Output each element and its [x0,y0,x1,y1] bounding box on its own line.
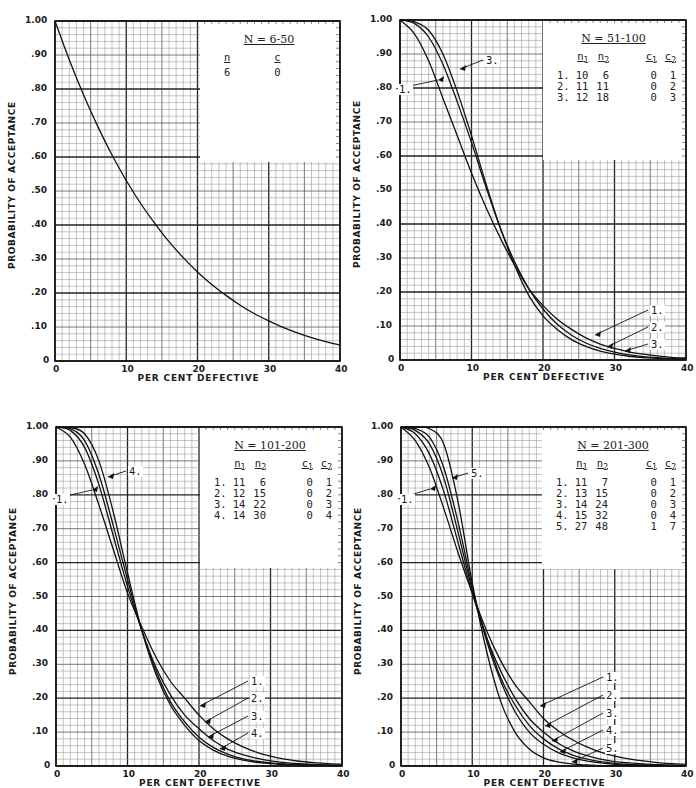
x-tick-label: 10 [467,769,480,779]
y-tick-label: .70 [377,523,393,533]
legend-header [552,458,571,477]
y-tick-label: .40 [377,624,393,634]
curve-label: 4. [605,725,620,736]
y-tick-label: .10 [377,726,393,736]
x-axis-title: PER CENT DEFECTIVE [484,778,606,788]
y-tick-label: .90 [377,455,393,465]
curve-label: 1. [605,672,620,683]
oc-chart-n-201-300: 1.5.1.2.3.4.5.0.10.20.30.40.50.60.70.80.… [0,0,696,788]
curve-label: 5. [605,743,620,754]
y-tick-label: .50 [377,591,393,601]
y-tick-label: 1.00 [371,421,393,431]
y-tick-label: 0 [389,760,395,770]
x-tick-label: 0 [399,769,405,779]
legend-row: 4.153204 [552,510,680,521]
legend-row: 2.131502 [552,488,680,499]
legend-header: c1 [642,458,661,477]
y-tick-label: .20 [377,692,393,702]
y-axis-title: PROBABILITY OF ACCEPTANCE [353,507,363,675]
plot-area [0,0,696,788]
curve-label: 5. [470,468,485,479]
x-tick-label: 40 [681,769,694,779]
y-tick-label: .30 [377,658,393,668]
legend-header: n1 [571,458,592,477]
x-tick-label: 30 [610,769,623,779]
curve-label: 3. [605,708,620,719]
y-tick-label: .80 [377,489,393,499]
y-tick-label: .60 [377,557,393,567]
legend-header: n2 [591,458,612,477]
legend-row: 1.11701 [552,477,680,488]
legend-header: c2 [661,458,680,477]
legend-row: 3.142403 [552,499,680,510]
legend-header [612,458,642,477]
legend-title: N = 201-300 [546,439,680,452]
curve-label: 1. [400,494,415,505]
curve-label: 2. [605,690,620,701]
legend-row: 5.274817 [552,521,680,532]
sampling-plan-table: n1n2c1c21.117012.1315023.1424034.1532045… [552,458,680,532]
legend-table: N = 201-300n1n2c1c21.117012.1315023.1424… [546,431,680,532]
